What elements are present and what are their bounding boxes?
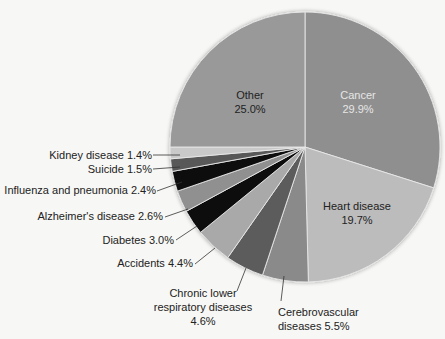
leader-chronic (237, 268, 246, 291)
label-cerebro-value: diseases 5.5% (278, 320, 350, 332)
label-chronic-2: respiratory diseases (154, 301, 253, 313)
leader-accidents (195, 248, 215, 264)
label-chronic: Chronic lower (169, 287, 237, 299)
label-heart-value: 19.7% (341, 214, 372, 226)
leader-diabetes (176, 226, 197, 240)
label-other-value: 25.0% (234, 103, 265, 115)
label-heart: Heart disease (323, 200, 391, 212)
label-influenza: Influenza and pneumonia 2.4% (4, 184, 156, 196)
label-other: Other (236, 89, 264, 101)
label-accidents: Accidents 4.4% (117, 257, 193, 269)
pie-chart: Cancer 29.9% Other 25.0% Heart disease 1… (0, 0, 445, 339)
label-diabetes: Diabetes 3.0% (102, 234, 174, 246)
label-suicide: Suicide 1.5% (88, 163, 152, 175)
label-cancer-value: 29.9% (342, 103, 373, 115)
leader-alzheimers (165, 209, 188, 217)
label-cerebro: Cerebrovascular (278, 306, 359, 318)
label-chronic-value: 4.6% (190, 315, 215, 327)
label-kidney: Kidney disease 1.4% (49, 149, 152, 161)
label-alzheimers: Alzheimer's disease 2.6% (37, 210, 163, 222)
pie-slices (170, 12, 440, 282)
label-cancer: Cancer (340, 89, 376, 101)
pie-slice-other (170, 12, 305, 147)
